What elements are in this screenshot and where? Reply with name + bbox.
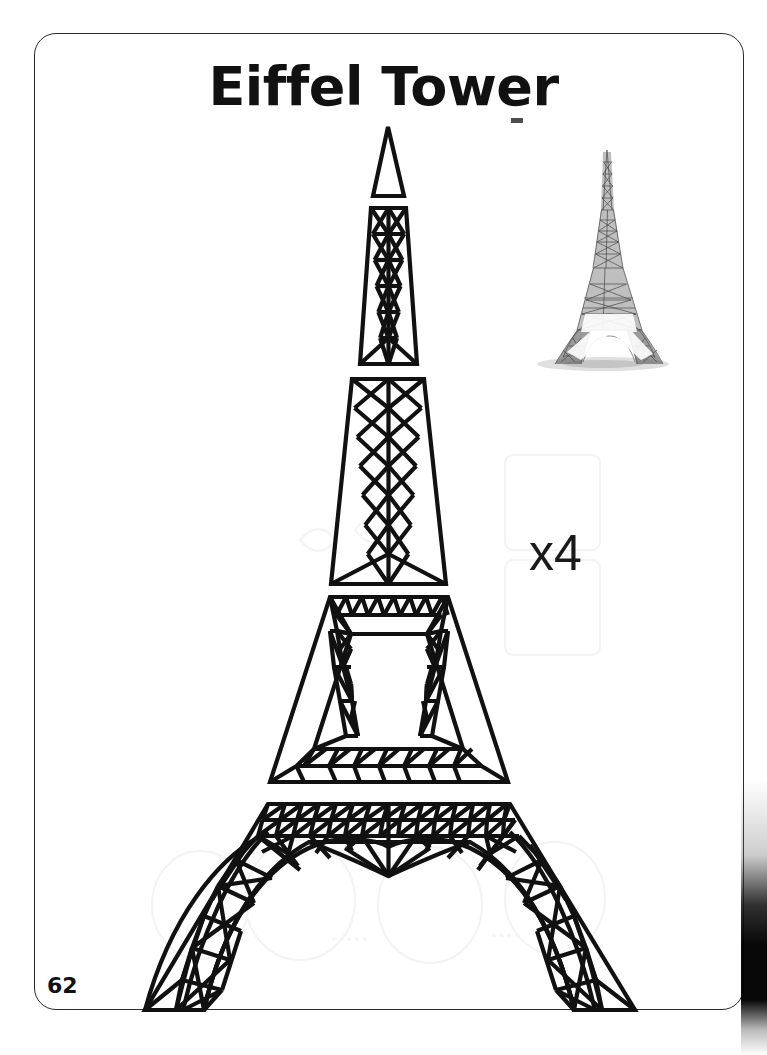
page-number: 62 — [47, 975, 78, 997]
completed-model-photo — [511, 118, 691, 378]
scan-gutter-shadow — [741, 0, 767, 1055]
page-title: Eiffel Tower — [0, 60, 767, 114]
quantity-label: x4 — [529, 528, 582, 578]
scanned-book-page: ••• ••••• •••• — [0, 0, 767, 1055]
